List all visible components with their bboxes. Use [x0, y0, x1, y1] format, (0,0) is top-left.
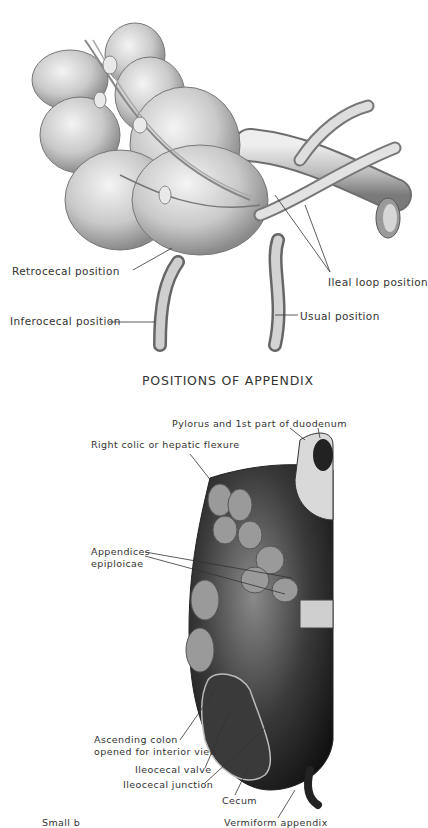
label-ileocecal-valve: Ileocecal valve [135, 764, 211, 775]
label-cropped-left: Small b [42, 817, 80, 828]
label-ascending-colon-line1: Ascending colon [94, 734, 178, 745]
label-hepatic-flexure: Right colic or hepatic flexure [91, 439, 240, 450]
label-vermiform-appendix: Vermiform appendix [224, 817, 328, 828]
label-appendices-line1: Appendices [91, 546, 150, 557]
label-ileal-loop-position: Ileal loop position [328, 276, 428, 288]
label-pylorus-duodenum: Pylorus and 1st part of duodenum [172, 418, 347, 429]
label-usual-position: Usual position [300, 310, 380, 322]
figure-caption: POSITIONS OF APPENDIX [142, 373, 314, 388]
label-appendices-line2: epiploicae [91, 558, 144, 569]
label-inferocecal-position: Inferocecal position [10, 315, 121, 327]
label-ascending-colon-line2: opened for interior view [94, 746, 218, 757]
label-ileocecal-junction: Ileocecal junction [123, 779, 213, 790]
label-cecum: Cecum [222, 795, 257, 806]
label-retrocecal-position: Retrocecal position [12, 265, 120, 277]
